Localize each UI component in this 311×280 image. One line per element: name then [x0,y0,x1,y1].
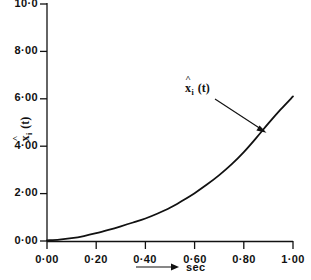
y-axis-title: ˄xi (t) [15,99,33,159]
x-axis-ticks [47,241,293,249]
x-tick-label-0: 0·00 [21,253,73,265]
hat-accent-icon-annotation: ˄ [185,74,190,83]
chart-canvas [0,0,311,280]
chart-figure: 10·0 8·00 6·00 4·00 2·00 0·00 0·00 0·20 … [0,0,311,280]
y-tick-label-10: 10·0 [0,0,38,9]
curve-annotation-text: ˄xi (t) [185,81,210,95]
y-axis-ticks [40,4,47,241]
x-axis-title: sec [186,261,206,273]
curve-annotation-label: ˄xi (t) [185,78,210,97]
x-hat-glyph-annotation: ˄x [185,81,191,96]
x-tick-label-020: 0·20 [70,253,122,265]
y-tick-label-0: 0·00 [0,234,38,246]
subscript-i-annotation: i [191,88,195,97]
x-tick-label-040: 0·40 [119,253,171,265]
data-series-curve [47,96,293,240]
y-tick-label-8: 8·00 [0,44,38,56]
y-axis-title-text: ˄xi (t) [18,117,32,142]
x-tick-label-080: 0·80 [218,253,270,265]
y-tick-label-2: 2·00 [0,186,38,198]
hat-accent-icon: ˄ [11,136,20,141]
annotation-arrow-icon [215,99,267,133]
x-tick-label-100: 1·00 [267,253,311,265]
x-hat-glyph: ˄x [18,135,33,141]
